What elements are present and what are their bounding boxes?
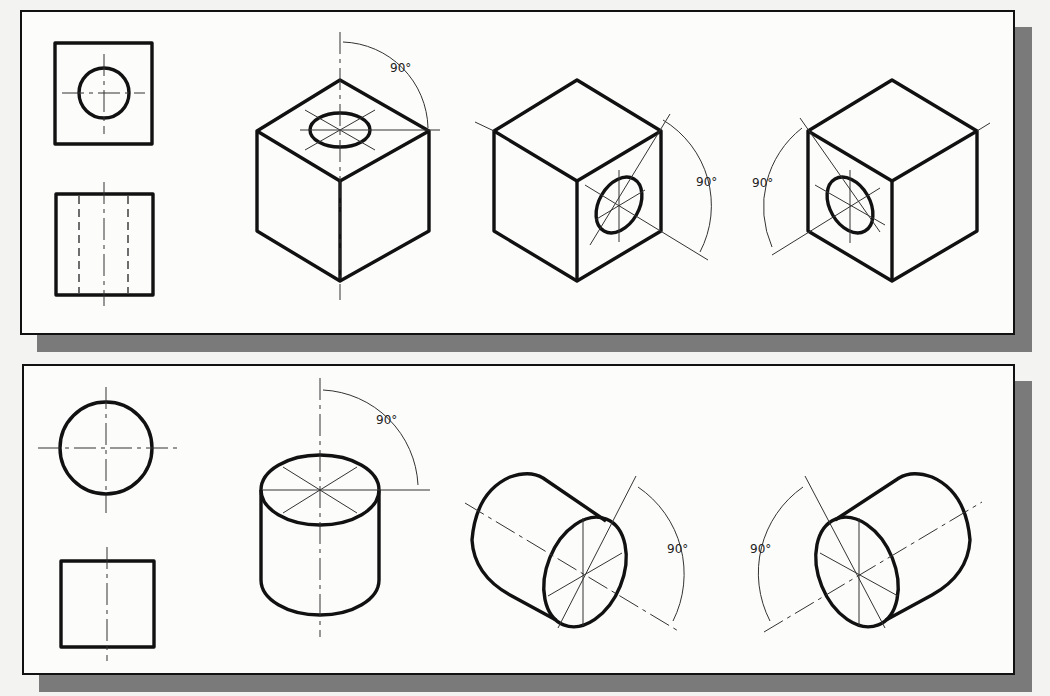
cube-iso-right-hole: 90°: [475, 80, 717, 281]
cube-iso-top-hole: 90°: [257, 32, 440, 300]
angle-label: 90°: [390, 61, 411, 75]
angle-label: 90°: [376, 413, 397, 427]
cylinder-iso-right: 90°: [465, 474, 688, 639]
angle-label: 90°: [752, 176, 773, 190]
cylinder-top-view: [38, 387, 180, 513]
cube-iso-left-hole: 90°: [752, 80, 990, 281]
cube-front-view: [56, 182, 153, 306]
cylinder-iso-left: 90°: [750, 474, 982, 639]
angle-label: 90°: [667, 542, 688, 556]
cube-top-view: [55, 43, 152, 144]
cylinder-iso-vertical: 90°: [261, 378, 430, 637]
angle-label: 90°: [750, 542, 771, 556]
drawing-canvas: 90° 90° 90°: [0, 0, 1050, 696]
cylinder-front-view: [61, 547, 154, 661]
angle-label: 90°: [696, 175, 717, 189]
